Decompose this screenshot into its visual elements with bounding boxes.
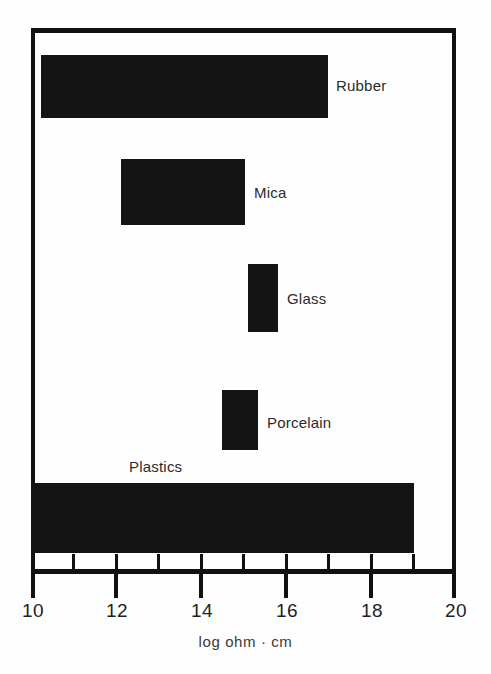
tick-label-16: 16 bbox=[276, 600, 298, 622]
x-axis bbox=[31, 569, 456, 577]
tick-inner-12 bbox=[115, 554, 118, 572]
tick-label-20: 20 bbox=[445, 600, 467, 622]
tick-inner-18 bbox=[370, 554, 373, 572]
bar-label-mica: Mica bbox=[254, 184, 286, 201]
tick-outer-20 bbox=[452, 574, 456, 598]
bar-mica bbox=[121, 159, 245, 225]
plot-area: Rubber Mica Glass Porcelain Plastics bbox=[31, 28, 456, 573]
bar-label-plastics: Plastics bbox=[129, 458, 182, 475]
bar-label-porcelain: Porcelain bbox=[267, 414, 331, 431]
tick-outer-16 bbox=[284, 574, 288, 598]
tick-inner-11 bbox=[72, 554, 75, 572]
tick-inner-14 bbox=[200, 554, 203, 572]
tick-inner-16 bbox=[285, 554, 288, 572]
bar-label-glass: Glass bbox=[287, 290, 326, 307]
tick-label-10: 10 bbox=[22, 600, 44, 622]
tick-outer-10 bbox=[31, 574, 35, 598]
tick-outer-18 bbox=[369, 574, 373, 598]
bar-label-rubber: Rubber bbox=[336, 77, 386, 94]
tick-label-12: 12 bbox=[106, 600, 128, 622]
bar-glass bbox=[248, 264, 278, 332]
tick-label-14: 14 bbox=[191, 600, 213, 622]
bar-plastics bbox=[31, 483, 414, 553]
tick-inner-15 bbox=[242, 554, 245, 572]
bar-rubber bbox=[41, 55, 328, 118]
tick-label-18: 18 bbox=[361, 600, 383, 622]
insulator-resistivity-chart: Rubber Mica Glass Porcelain Plastics 10 … bbox=[0, 0, 491, 674]
tick-outer-14 bbox=[199, 574, 203, 598]
tick-inner-19 bbox=[412, 554, 415, 572]
tick-outer-12 bbox=[114, 574, 118, 598]
x-axis-title: log ohm · cm bbox=[0, 633, 491, 650]
tick-inner-17 bbox=[327, 554, 330, 572]
tick-inner-13 bbox=[157, 554, 160, 572]
bar-porcelain bbox=[222, 390, 258, 450]
